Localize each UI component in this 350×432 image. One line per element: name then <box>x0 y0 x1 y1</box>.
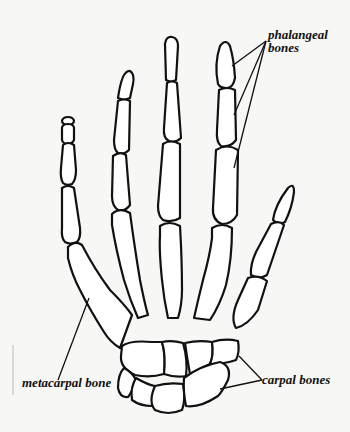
hand-skeleton-diagram <box>0 0 350 432</box>
index-finger <box>213 42 238 224</box>
carpal-bones-label: carpal bones <box>262 373 330 386</box>
metacarpal-bone-label: metacarpal bone <box>22 376 111 389</box>
phalangeal-label-line2: bones <box>268 41 328 54</box>
phalangeal-bones-label: phalangeal bones <box>268 28 328 54</box>
ring-finger <box>112 71 134 210</box>
little-finger <box>61 117 80 244</box>
middle-finger <box>158 37 181 221</box>
metacarpals <box>68 210 232 348</box>
thumb <box>233 186 294 328</box>
carpals <box>118 340 239 413</box>
